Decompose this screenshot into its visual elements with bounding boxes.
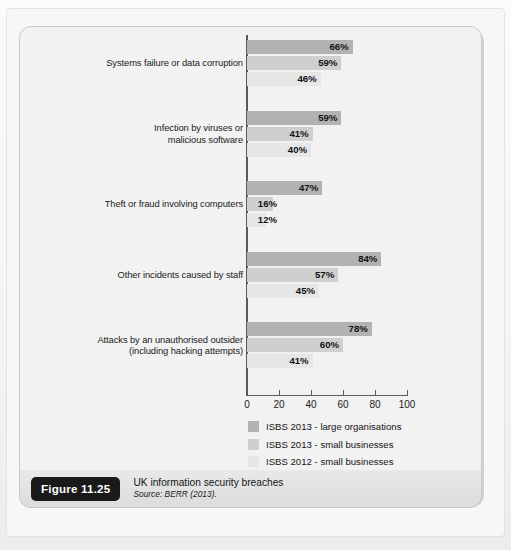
x-axis-tick-label: 100 — [392, 399, 422, 410]
bar-value-label: 16% — [247, 197, 281, 211]
category-label: Theft or fraud involving computers — [23, 198, 243, 209]
category-label: Other incidents caused by staff — [23, 269, 243, 280]
bar-value-label: 40% — [247, 143, 311, 157]
x-axis-line — [246, 395, 407, 396]
bar-value-label: 84% — [247, 252, 381, 266]
category-label: Infection by viruses or malicious softwa… — [23, 122, 243, 145]
legend-item: ISBS 2012 - small businesses — [248, 454, 478, 469]
legend-item: ISBS 2013 - large organisations — [248, 419, 478, 434]
x-axis-tick — [279, 390, 280, 396]
figure-caption-text: UK information security breaches Source:… — [133, 477, 283, 500]
x-axis-tick-label: 40 — [296, 399, 326, 410]
bar-value-label: 59% — [247, 56, 341, 70]
bar-value-label: 66% — [247, 40, 353, 54]
legend-swatch — [248, 456, 259, 467]
figure-caption-bar: Figure 11.25 UK information security bre… — [19, 470, 482, 508]
x-axis-tick — [247, 390, 248, 396]
legend-swatch — [248, 439, 259, 450]
bar-value-label: 45% — [247, 284, 319, 298]
bar-value-label: 59% — [247, 111, 341, 125]
bar-value-label: 41% — [247, 127, 313, 141]
bar-value-label: 47% — [247, 181, 322, 195]
bar-value-label: 41% — [247, 354, 313, 368]
x-axis-tick-label: 20 — [264, 399, 294, 410]
x-axis-tick — [311, 390, 312, 396]
category-label: Attacks by an unauthorised outsider (inc… — [23, 334, 243, 357]
category-label: Systems failure or data corruption — [23, 57, 243, 68]
x-axis-tick — [375, 390, 376, 396]
legend-swatch — [248, 421, 259, 432]
bar-value-label: 46% — [247, 72, 321, 86]
x-axis-tick-label: 60 — [328, 399, 358, 410]
legend-label: ISBS 2013 - small businesses — [266, 439, 393, 450]
x-axis-tick — [407, 390, 408, 396]
figure-card: 02040608010066%59%46%Systems failure or … — [19, 26, 482, 505]
legend-label: ISBS 2012 - small businesses — [266, 456, 393, 467]
bar-value-label: 78% — [247, 322, 372, 336]
page-background: 02040608010066%59%46%Systems failure or … — [0, 0, 511, 550]
chart-legend: ISBS 2013 - large organisationsISBS 2013… — [248, 419, 478, 472]
bar-value-label: 12% — [247, 213, 281, 227]
legend-item: ISBS 2013 - small businesses — [248, 437, 478, 452]
bar-value-label: 57% — [247, 268, 338, 282]
figure-source: Source: BERR (2013). — [133, 489, 283, 500]
legend-label: ISBS 2013 - large organisations — [266, 421, 401, 432]
bar-value-label: 60% — [247, 338, 343, 352]
bar-chart: 02040608010066%59%46%Systems failure or … — [20, 27, 481, 427]
x-axis-tick-label: 80 — [360, 399, 390, 410]
x-axis-tick — [343, 390, 344, 396]
figure-number-badge: Figure 11.25 — [31, 477, 120, 501]
figure-title: UK information security breaches — [133, 477, 283, 489]
x-axis-tick-label: 0 — [232, 399, 262, 410]
